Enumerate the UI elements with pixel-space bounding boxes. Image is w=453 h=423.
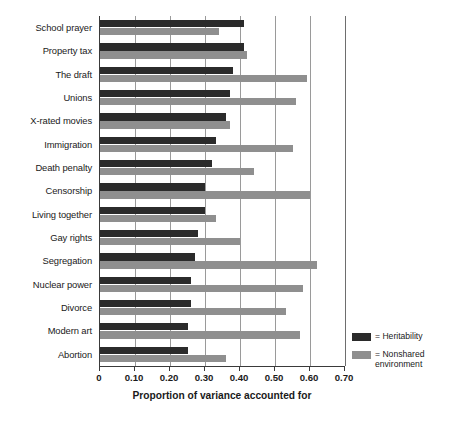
bar-nonshared <box>100 28 219 35</box>
bar-heritability <box>100 183 205 190</box>
x-axis-tick-label: 0 <box>96 371 101 385</box>
category-label: Abortion <box>0 343 96 366</box>
category-label: Divorce <box>0 296 96 319</box>
x-axis-tick-label: 0.60 <box>300 371 319 385</box>
category-label: Modern art <box>0 319 96 342</box>
legend-swatch-nonshared <box>352 351 371 359</box>
bar-nonshared <box>100 98 296 105</box>
bar-heritability <box>100 277 191 284</box>
bar-group <box>100 109 345 132</box>
bar-group <box>100 203 345 226</box>
x-axis-tick-label: 0.20 <box>160 371 179 385</box>
bar-nonshared <box>100 121 230 128</box>
x-axis-tick-label: 0.70 <box>335 371 354 385</box>
bar-heritability <box>100 207 205 214</box>
x-axis-title: Proportion of variance accounted for <box>99 390 345 401</box>
category-label: Segregation <box>0 249 96 272</box>
bar-heritability <box>100 137 216 144</box>
bar-group <box>100 133 345 156</box>
x-axis-tick-label: 0.50 <box>265 371 284 385</box>
category-label: Unions <box>0 86 96 109</box>
category-label: Nuclear power <box>0 273 96 296</box>
legend-label: = Heritability <box>375 331 423 342</box>
bar-heritability <box>100 90 230 97</box>
bar-heritability <box>100 230 198 237</box>
bar-group <box>100 296 345 319</box>
x-axis-tick-label: 0.30 <box>195 371 214 385</box>
bar-nonshared <box>100 308 286 315</box>
legend-entry: = Heritability <box>352 331 452 342</box>
bar-nonshared <box>100 355 226 362</box>
bar-nonshared <box>100 261 317 268</box>
bar-heritability <box>100 253 195 260</box>
category-label: X-rated movies <box>0 109 96 132</box>
x-axis-tick-labels: 00.100.200.300.400.500.600.70 <box>99 371 344 385</box>
bar-nonshared <box>100 145 293 152</box>
bar-group <box>100 226 345 249</box>
bar-heritability <box>100 113 226 120</box>
legend-entry: = Nonshared environment <box>352 349 452 370</box>
bar-nonshared <box>100 191 310 198</box>
bar-nonshared <box>100 331 300 338</box>
x-axis-tick-label: 0.40 <box>230 371 249 385</box>
bar-group <box>100 273 345 296</box>
bar-group <box>100 156 345 179</box>
bar-nonshared <box>100 51 247 58</box>
bar-nonshared <box>100 215 216 222</box>
bar-heritability <box>100 160 212 167</box>
bar-heritability <box>100 20 244 27</box>
legend-label: = Nonshared environment <box>375 349 424 370</box>
bar-chart: School prayerProperty taxThe draftUnions… <box>0 0 453 423</box>
bar-heritability <box>100 67 233 74</box>
bar-nonshared <box>100 285 303 292</box>
bar-group <box>100 63 345 86</box>
category-label: Immigration <box>0 133 96 156</box>
bar-nonshared <box>100 238 240 245</box>
category-label: Gay rights <box>0 226 96 249</box>
chart-legend: = Heritability= Nonshared environment <box>352 331 452 377</box>
bar-heritability <box>100 300 191 307</box>
category-label: Censorship <box>0 179 96 202</box>
bar-series-container <box>100 16 345 366</box>
bar-group <box>100 343 345 366</box>
legend-swatch-heritability <box>352 333 371 341</box>
category-label: The draft <box>0 63 96 86</box>
category-label: School prayer <box>0 16 96 39</box>
bar-group <box>100 39 345 62</box>
bar-group <box>100 249 345 272</box>
category-axis: School prayerProperty taxThe draftUnions… <box>0 16 96 366</box>
bar-nonshared <box>100 75 307 82</box>
bar-group <box>100 179 345 202</box>
bar-heritability <box>100 43 244 50</box>
bar-group <box>100 86 345 109</box>
bar-group <box>100 319 345 342</box>
category-label: Property tax <box>0 39 96 62</box>
plot-area <box>99 16 346 366</box>
bar-heritability <box>100 347 188 354</box>
x-axis-tick-label: 0.10 <box>125 371 144 385</box>
bar-group <box>100 16 345 39</box>
category-label: Death penalty <box>0 156 96 179</box>
category-label: Living together <box>0 203 96 226</box>
bar-nonshared <box>100 168 254 175</box>
bar-heritability <box>100 323 188 330</box>
